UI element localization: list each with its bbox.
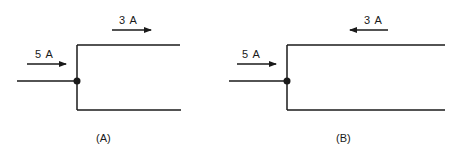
branch-current-label: 3 A [364,15,383,26]
junction-node [284,78,291,85]
panel-caption: (B) [336,133,351,144]
panel-a [17,30,181,110]
panel-b [229,30,445,110]
input-current-label: 5 A [35,49,54,60]
branch-current-label: 3 A [119,15,138,26]
junction-node [74,78,81,85]
circuit-diagram [0,0,459,154]
input-current-label: 5 A [242,49,261,60]
panel-caption: (A) [96,133,111,144]
